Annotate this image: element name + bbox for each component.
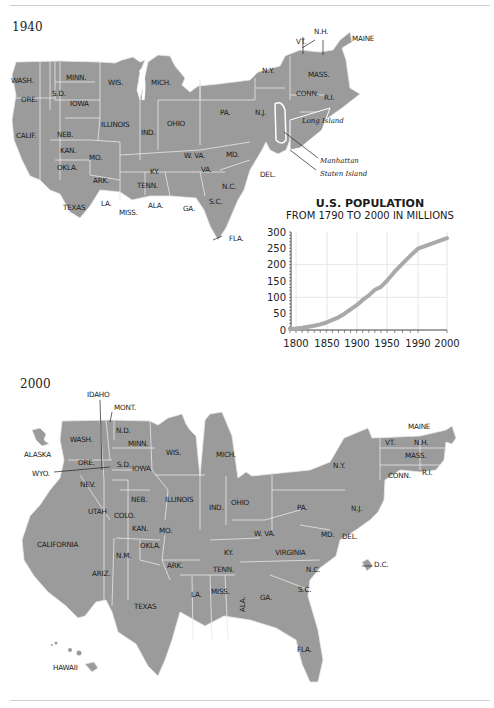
label-mo: MO.	[159, 526, 172, 535]
label-minn: MINN.	[128, 439, 148, 448]
label-del: DEL.	[342, 532, 358, 541]
label-ore: ORE.	[78, 458, 95, 467]
label-nd: N.D.	[116, 426, 131, 435]
map-2000: IDAHO MONT. N.D. WASH. MINN. ALASKA ORE.…	[0, 0, 494, 708]
label-idaho: IDAHO	[87, 390, 110, 399]
label-iowa: IOWA	[132, 464, 151, 473]
dc-shape	[362, 559, 373, 571]
label-conn: CONN.	[388, 471, 411, 480]
label-neb: NEB.	[131, 495, 147, 504]
label-dc: D.C.	[374, 560, 388, 569]
label-ind: IND.	[209, 503, 224, 512]
hawaii-big-island	[85, 662, 98, 672]
label-utah: UTAH	[88, 507, 107, 516]
label-ky: KY.	[224, 548, 233, 557]
label-ala: ALA.	[238, 597, 247, 612]
label-kan: KAN.	[132, 524, 148, 533]
label-sd: S.D.	[117, 460, 131, 469]
label-wash: WASH.	[70, 435, 93, 444]
map-2000-landmass	[22, 412, 456, 682]
label-md: MD.	[321, 530, 334, 539]
alaska-shape	[32, 428, 49, 446]
label-miss: MISS.	[211, 587, 230, 596]
label-mass: MASS.	[405, 451, 427, 460]
label-texas: TEXAS	[133, 602, 157, 611]
label-colo: COLO.	[114, 511, 135, 520]
label-maine: MAINE	[408, 422, 431, 431]
label-california: CALIFORNIA	[37, 540, 79, 549]
label-virginia: VIRGINIA	[275, 548, 306, 557]
label-wis: WIS.	[166, 448, 181, 457]
label-nj: N.J.	[351, 504, 362, 513]
label-mich: MICH.	[216, 450, 236, 459]
label-ariz: ARIZ.	[92, 569, 110, 578]
label-nc: N.C.	[306, 565, 320, 574]
label-alaska: ALASKA	[24, 450, 51, 459]
label-ny: N.Y.	[333, 461, 345, 470]
label-vt: VT.	[385, 438, 395, 447]
label-ri: R.I.	[422, 468, 433, 477]
label-la: LA.	[191, 590, 202, 599]
label-okla: OKLA.	[140, 541, 161, 550]
label-ark: ARK.	[167, 561, 183, 570]
label-wva: W. VA.	[254, 529, 275, 538]
label-ohio: OHIO	[231, 498, 250, 507]
label-illinois: ILLINOIS	[165, 495, 194, 504]
label-fla: FLA.	[297, 645, 312, 654]
label-tenn: TENN.	[212, 565, 234, 574]
label-ga: GA.	[260, 593, 272, 602]
label-wyo: WYO.	[32, 469, 50, 478]
label-pa: PA.	[297, 503, 307, 512]
label-hawaii: HAWAII	[53, 663, 78, 672]
label-nev: NEV.	[80, 480, 95, 489]
label-nm: N.M.	[116, 551, 131, 560]
label-sc: S.C.	[298, 585, 311, 594]
label-nh: N.H.	[414, 438, 428, 447]
label-mont: MONT.	[114, 403, 136, 412]
